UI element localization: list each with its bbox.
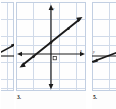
coordinate-axes-main — [16, 2, 86, 91]
y-axis-label: y — [53, 7, 55, 11]
plot-point — [32, 55, 35, 58]
page-edge-left — [0, 0, 1, 109]
graph-panel-left-partial — [0, 2, 14, 91]
x-axis-arrow-left — [17, 52, 22, 56]
graph-panel-right-partial: y — [92, 2, 116, 91]
worksheet-page: y x O y 3. 5. — [0, 0, 116, 109]
y-axis-label-right: y — [93, 50, 95, 54]
x-axis-label: x — [80, 49, 82, 53]
plot-point — [67, 27, 70, 30]
panel-gap-right — [86, 0, 92, 109]
axes-and-line-right — [92, 2, 116, 91]
y-axis-arrow-down — [49, 84, 54, 90]
axes-and-line-left — [0, 2, 14, 91]
graph-panel-main: y x O — [16, 2, 86, 91]
question-number-5: 5. — [93, 95, 97, 101]
origin-label: O — [53, 56, 55, 60]
question-number-3: 3. — [17, 95, 21, 101]
plot-point — [50, 41, 53, 44]
panel-gap-left — [14, 0, 16, 109]
